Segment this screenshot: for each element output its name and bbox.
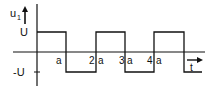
x-axis-label: t <box>190 62 193 73</box>
square-wave-diagram: u 1 U -U a 2 a 3 a 4 a t <box>0 0 217 89</box>
y-axis-arrow-icon <box>22 6 28 24</box>
x-tick-label-a: a <box>56 55 62 66</box>
x-tick-label-4-a: a <box>156 55 162 66</box>
y-tick-label-u: U <box>20 26 28 38</box>
x-tick-label-4-digit: 4 <box>147 55 153 66</box>
x-tick-label-3-a: a <box>127 55 133 66</box>
y-axis-label-subscript: 1 <box>17 14 21 21</box>
y-tick-label-neg-u: -U <box>13 66 25 78</box>
x-tick-label-2-digit: 2 <box>89 55 95 66</box>
x-tick-label-3-digit: 3 <box>119 55 125 66</box>
x-tick-label-2-a: a <box>98 55 104 66</box>
y-axis-label: u <box>10 7 16 19</box>
